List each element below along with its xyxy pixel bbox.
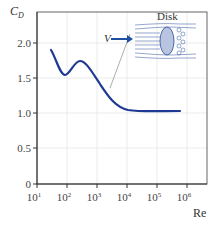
y-tick-label: 1.0	[17, 107, 31, 119]
x-axis-title: Re	[193, 206, 206, 220]
x-tick-label: 103	[87, 191, 102, 203]
y-tick-label: 0.5	[17, 142, 31, 154]
y-tick-label: 0	[26, 178, 32, 190]
y-tick-label: 2.0	[17, 37, 31, 49]
y-ticks	[33, 43, 37, 184]
x-tick-label: 106	[177, 191, 192, 203]
drag-coefficient-chart: 0 0.5 1.0 1.5 2.0 101 102 103 104 105 10…	[0, 0, 218, 229]
x-tick-labels: 101 102 103 104 105 106	[27, 191, 192, 203]
x-tick-label: 104	[117, 191, 132, 203]
x-ticks	[37, 184, 187, 188]
disk-icon	[160, 27, 174, 55]
inset-title: Disk	[157, 10, 178, 22]
x-tick-label: 101	[27, 191, 42, 203]
x-tick-label: 105	[147, 191, 162, 203]
y-axis-title: CD	[10, 4, 24, 20]
plot-area	[37, 12, 207, 184]
y-tick-label: 1.5	[17, 72, 31, 84]
y-tick-labels: 0 0.5 1.0 1.5 2.0	[17, 37, 31, 190]
x-tick-label: 102	[57, 191, 72, 203]
